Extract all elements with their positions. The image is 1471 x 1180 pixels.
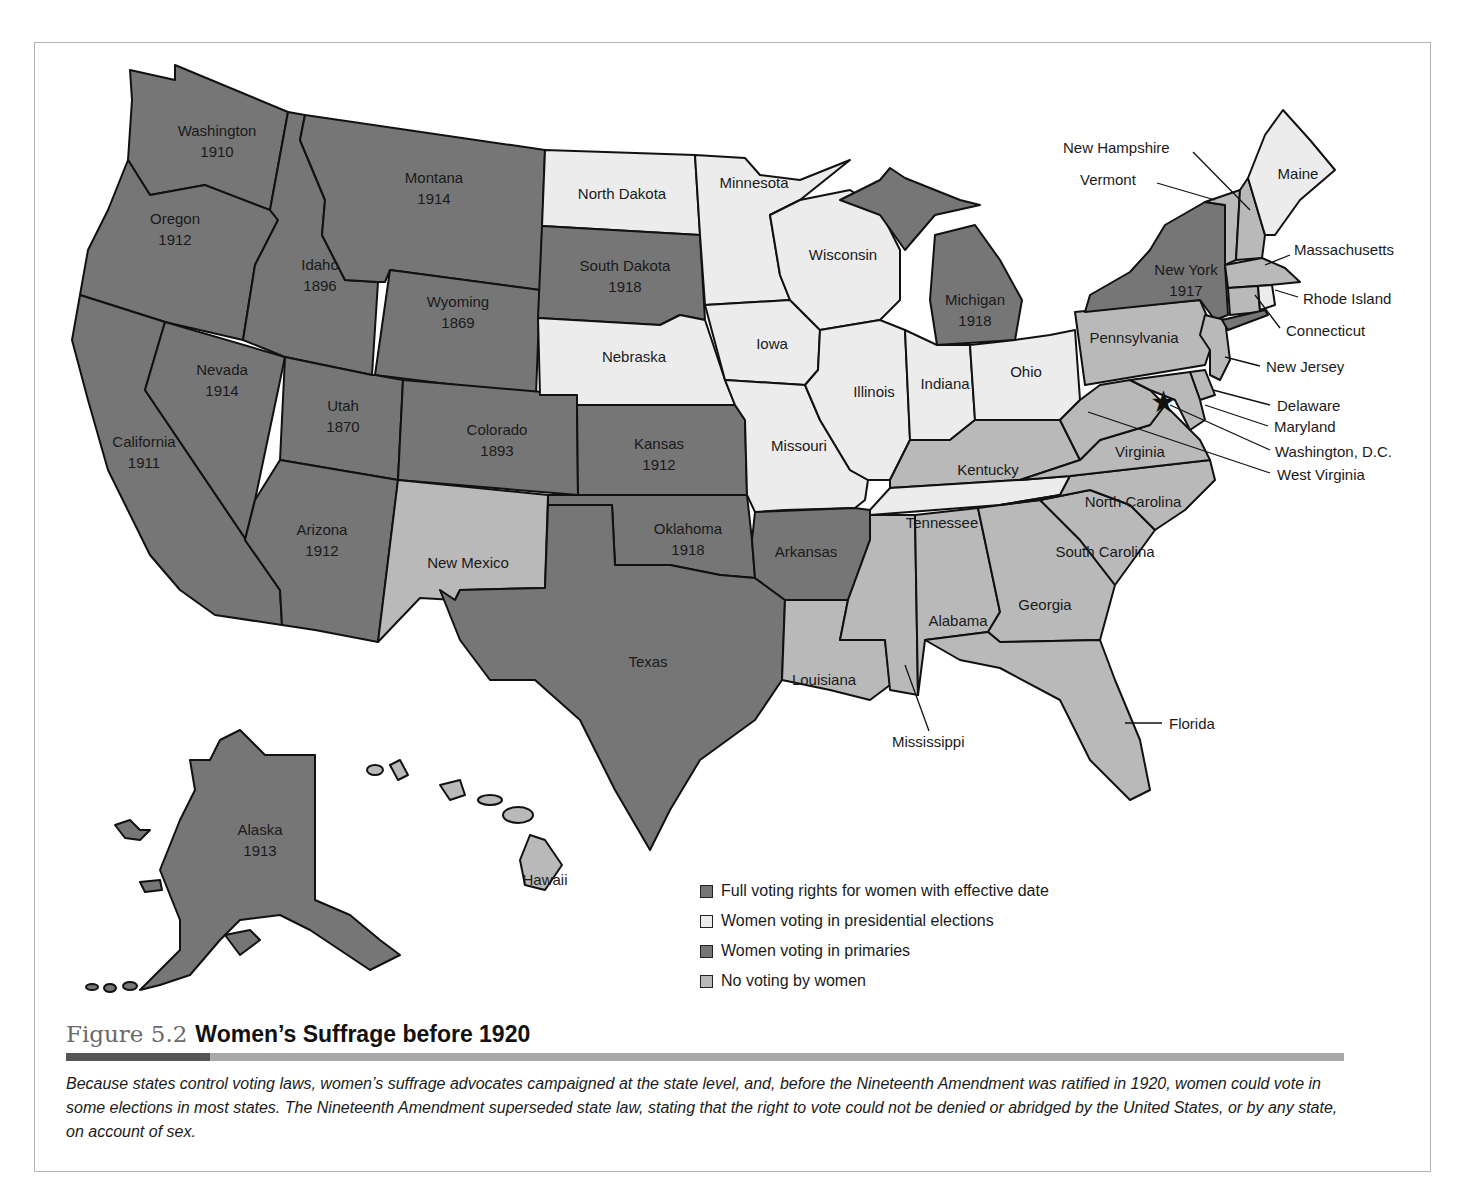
hawaii-island-1 [367,765,383,775]
figure-title: Figure 5.2Women’s Suffrage before 1920 [66,1020,530,1048]
label-wyoming: Wyoming1869 [427,291,489,333]
label-virginia: Virginia [1115,441,1165,462]
label-south-carolina: South Carolina [1055,541,1154,562]
legend-label: Full voting rights for women with effect… [721,882,1049,900]
label-missouri: Missouri [771,435,827,456]
legend-swatch-presidential [700,915,713,928]
label-oregon: Oregon1912 [150,208,200,250]
callout-massachusetts: Massachusetts [1294,241,1394,259]
alaska-island-6 [123,982,137,990]
label-iowa: Iowa [756,333,788,354]
callout-west-virginia: West Virginia [1277,466,1365,484]
hawaii-island-4 [478,795,502,805]
label-colorado: Colorado1893 [467,419,528,461]
legend-item-none: No voting by women [700,966,1049,996]
label-wisconsin: Wisconsin [809,244,877,265]
state-rhode-island [1258,285,1275,310]
label-arizona: Arizona1912 [297,519,348,561]
alaska-island-5 [104,984,116,992]
label-georgia: Georgia [1018,594,1071,615]
callout-connecticut: Connecticut [1286,322,1365,340]
label-tennessee: Tennessee [906,512,979,533]
callout-rhode-island: Rhode Island [1303,290,1391,308]
label-north-carolina: North Carolina [1085,491,1182,512]
label-washington: Washington1910 [178,120,257,162]
label-north-dakota: North Dakota [578,183,666,204]
label-nebraska: Nebraska [602,346,666,367]
label-louisiana: Louisiana [792,669,856,690]
legend-label: Women voting in primaries [721,942,910,960]
callout-florida: Florida [1169,715,1215,733]
callout-new-hampshire: New Hampshire [1063,139,1170,157]
label-utah: Utah1870 [326,395,359,437]
legend-swatch-full [700,885,713,898]
map-legend: Full voting rights for women with effect… [700,876,1049,996]
label-kentucky: Kentucky [957,459,1019,480]
state-connecticut [1228,286,1260,315]
state-massachusetts [1225,258,1300,288]
title-rule [66,1053,1344,1061]
label-indiana: Indiana [920,373,969,394]
label-texas: Texas [628,651,667,672]
state-florida [925,632,1150,800]
alaska-island-1 [115,820,150,840]
label-south-dakota: South Dakota1918 [580,255,671,297]
callout-vermont: Vermont [1080,171,1136,189]
label-new-mexico: New Mexico [427,552,509,573]
figure-caption: Because states control voting laws, wome… [66,1072,1356,1144]
figure-number: Figure 5.2 [66,1021,187,1047]
label-oklahoma: Oklahoma1918 [654,518,722,560]
hawaii-island-3 [440,780,465,800]
alaska-island-2 [140,880,162,892]
label-alabama: Alabama [928,610,987,631]
legend-item-primaries: Women voting in primaries [700,936,1049,966]
label-alaska: Alaska1913 [237,819,282,861]
label-arkansas: Arkansas [775,541,838,562]
legend-item-presidential: Women voting in presidential elections [700,906,1049,936]
hawaii-island-2 [390,760,408,780]
label-idaho: Idaho1896 [301,254,339,296]
label-california: California1911 [112,431,175,473]
legend-item-full: Full voting rights for women with effect… [700,876,1049,906]
legend-swatch-none [700,975,713,988]
label-nevada: Nevada1914 [196,359,248,401]
legend-label: No voting by women [721,972,866,990]
legend-label: Women voting in presidential elections [721,912,994,930]
figure-name: Women’s Suffrage before 1920 [195,1021,530,1047]
label-illinois: Illinois [853,381,895,402]
title-rule-accent [66,1053,210,1061]
legend-swatch-primaries [700,945,713,958]
callout-washington-dc: Washington, D.C. [1275,443,1392,461]
callout-delaware: Delaware [1277,397,1340,415]
hawaii-island-5 [503,807,533,823]
capital-star-icon: ★ [1150,384,1177,419]
label-hawaii: Hawaii [522,869,567,890]
callout-new-jersey: New Jersey [1266,358,1344,376]
label-kansas: Kansas1912 [634,433,684,475]
label-ohio: Ohio [1010,361,1042,382]
alaska-island-3 [225,930,260,955]
label-montana: Montana1914 [405,167,463,209]
callout-mississippi: Mississippi [892,733,965,751]
alaska-island-4 [86,984,98,990]
label-michigan: Michigan1918 [945,289,1005,331]
label-maine: Maine [1278,163,1319,184]
label-pennsylvania: Pennsylvania [1089,327,1178,348]
label-new-york: New York1917 [1154,259,1217,301]
label-minnesota: Minnesota [719,172,788,193]
callout-maryland: Maryland [1274,418,1336,436]
